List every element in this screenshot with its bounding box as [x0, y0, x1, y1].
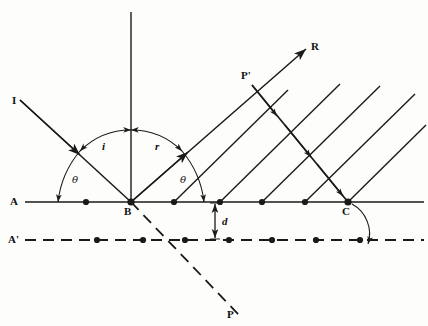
image-dot	[313, 237, 319, 243]
label-angle-incidence: i	[102, 141, 105, 152]
surface-dot	[217, 199, 223, 205]
label-theta-left: θ	[72, 175, 78, 185]
label-point-b: B	[124, 206, 131, 217]
image-dot	[94, 237, 100, 243]
wavefront-line	[252, 85, 348, 202]
reflected-ray-main	[131, 49, 306, 202]
image-dot	[182, 237, 188, 243]
label-point-c: C	[342, 206, 350, 217]
label-reflected-ray: R	[311, 41, 319, 52]
label-point-p: P	[227, 309, 234, 320]
label-image-line: A'	[8, 234, 19, 245]
label-incident-ray: I	[12, 95, 16, 106]
surface-dot	[259, 199, 265, 205]
incident-rays	[20, 100, 131, 202]
label-angle-reflection: r	[155, 141, 159, 152]
figure-canvas: I R P' B C P A A' i r θ θ d	[0, 0, 428, 326]
label-point-p-prime: P'	[241, 70, 251, 81]
angle-arc-i	[80, 130, 131, 151]
image-dot	[226, 237, 232, 243]
surface-dot	[171, 199, 177, 205]
image-dot	[140, 237, 146, 243]
label-surface-line: A	[10, 196, 18, 207]
surface-dot	[302, 199, 308, 205]
label-distance-d: d	[222, 216, 228, 227]
distance-d-arrow	[210, 203, 220, 239]
ray-diagram-svg	[0, 0, 428, 326]
label-theta-right: θ	[180, 175, 186, 185]
surface-dot	[83, 199, 89, 205]
image-dot	[269, 237, 275, 243]
image-dot	[357, 237, 363, 243]
